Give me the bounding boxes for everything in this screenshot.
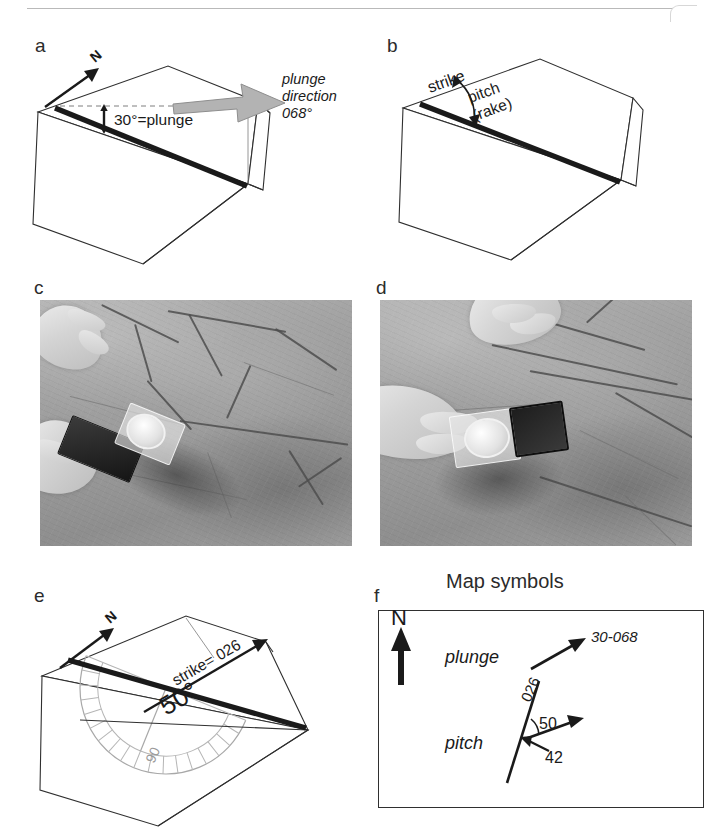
panel-b-block-diagram: strike pitch (rake) xyxy=(375,18,723,268)
compass-lid-d xyxy=(509,400,569,457)
page-top-rule xyxy=(27,8,695,9)
panel-f: f Map symbols N plunge 30-068 pitch xyxy=(368,568,720,836)
panel-d: d xyxy=(370,278,722,558)
north-label-a: N xyxy=(87,47,105,66)
panel-c: c xyxy=(18,278,370,558)
panel-a-block-diagram: 30°=plunge N xyxy=(0,18,380,268)
panel-b: b strike pitch (rake) xyxy=(375,18,723,268)
plunge-symbol-label: plunge xyxy=(444,647,499,667)
north-label-f: N xyxy=(391,605,407,630)
panel-e: e xyxy=(18,568,368,836)
pitch-symbol-label: pitch xyxy=(444,733,483,753)
panel-c-label: c xyxy=(34,278,44,297)
map-symbols-svg: N plunge 30-068 pitch xyxy=(379,611,703,807)
panel-d-label: d xyxy=(376,278,387,297)
map-symbols-title: Map symbols xyxy=(446,570,564,593)
panel-b-label: b xyxy=(387,36,398,55)
pitch-dip-value: 42 xyxy=(545,749,563,766)
panel-e-label: e xyxy=(34,586,45,605)
panel-a: a 30°=plunge xyxy=(0,18,380,268)
north-label-e: N xyxy=(102,608,120,627)
photo-d-pitch-measurement xyxy=(380,300,692,546)
map-symbols-box: N plunge 30-068 pitch xyxy=(378,610,704,808)
plunge-symbol-arrow xyxy=(531,638,586,669)
plunge-direction-label-3: 068° xyxy=(282,105,312,121)
plunge-direction-label-1: plunge xyxy=(281,71,326,87)
pitch-strike-value: 026 xyxy=(517,674,543,704)
panel-f-label: f xyxy=(374,586,379,605)
plunge-symbol-value: 30-068 xyxy=(591,628,638,645)
panel-e-block-diagram: 90 strike= 026 50° N xyxy=(18,568,368,836)
plunge-direction-label-2: direction xyxy=(282,88,337,104)
panel-a-label: a xyxy=(35,36,46,55)
photo-c-plunge-measurement xyxy=(40,300,352,546)
figure-root: a 30°=plunge xyxy=(0,0,723,839)
pitch-value: 50 xyxy=(539,715,557,732)
north-arrow-f xyxy=(391,627,411,685)
